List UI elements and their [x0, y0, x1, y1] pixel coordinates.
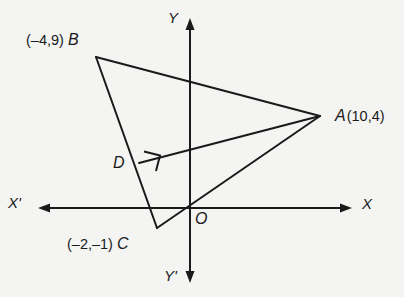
origin-label: O: [195, 211, 207, 227]
y-axis-bottom-arrowhead: [186, 271, 195, 283]
y-axis-top-arrowhead: [186, 18, 195, 30]
point-c-letter: C: [117, 236, 129, 252]
point-b-letter: B: [68, 32, 79, 48]
segment-ba: [96, 57, 320, 116]
point-c-coords: (–2,–1): [67, 237, 113, 252]
x-positive-axis-label: X: [362, 196, 372, 211]
x-axis-left-arrowhead: [38, 204, 50, 213]
segment-ca: [157, 116, 320, 228]
point-b-label: (–4,9) B: [26, 32, 79, 48]
geometry-figure: X' X Y Y' O (–4,9) B A (10,4) (–2,–1) C …: [0, 0, 404, 297]
point-c-label: (–2,–1) C: [67, 236, 129, 252]
point-a-label: A (10,4): [335, 108, 385, 124]
y-negative-axis-label: Y': [164, 268, 177, 283]
point-b-coords: (–4,9): [26, 33, 64, 48]
segment-ad-altitude: [139, 116, 320, 163]
triangle-abc: [96, 57, 320, 228]
point-d-label: D: [113, 155, 125, 171]
point-a-coords: (10,4): [347, 109, 385, 124]
point-a-letter: A: [335, 108, 346, 124]
segment-bc: [96, 57, 157, 228]
y-positive-axis-label: Y: [168, 10, 178, 25]
x-negative-axis-label: X': [8, 195, 21, 210]
x-axis-right-arrowhead: [340, 204, 352, 213]
